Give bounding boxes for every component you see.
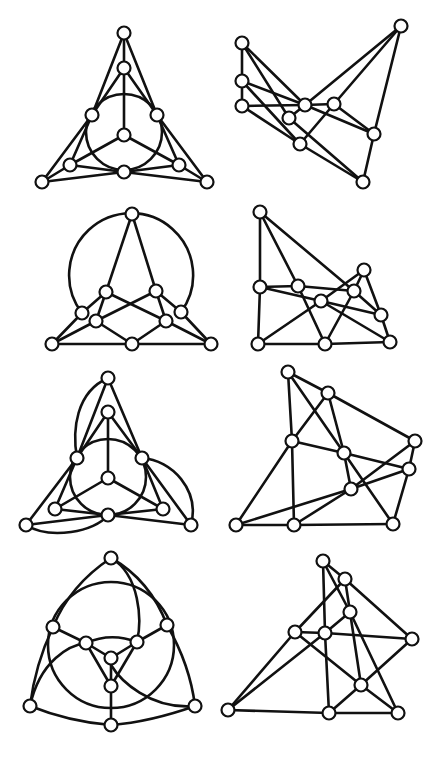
graph-node xyxy=(254,281,267,294)
graph-edge xyxy=(325,633,412,639)
graph-edge xyxy=(351,469,409,489)
graph-node xyxy=(64,159,77,172)
curved-edge xyxy=(69,213,193,313)
graph-edge xyxy=(106,214,132,292)
graph-node xyxy=(100,286,113,299)
graph-node xyxy=(288,519,301,532)
graph-node xyxy=(105,719,118,732)
graph-node xyxy=(384,336,397,349)
graph-node xyxy=(24,700,37,713)
curved-edge xyxy=(111,558,139,642)
graph-node xyxy=(236,100,249,113)
graph-node xyxy=(102,372,115,385)
graph-node xyxy=(150,285,163,298)
curved-edge xyxy=(53,558,111,627)
graph-node xyxy=(286,435,299,448)
graph-node xyxy=(355,679,368,692)
graph-node xyxy=(47,621,60,634)
graph-node xyxy=(20,519,33,532)
graph-node xyxy=(118,62,131,75)
graph-edge xyxy=(228,633,325,710)
graph-node xyxy=(160,315,173,328)
graph-node xyxy=(118,166,131,179)
graph-node xyxy=(252,338,265,351)
graph-node xyxy=(358,264,371,277)
graph-node xyxy=(236,37,249,50)
graph-node xyxy=(319,338,332,351)
graph-node xyxy=(387,518,400,531)
graph-node xyxy=(126,208,139,221)
graph-edge xyxy=(328,393,344,453)
graph-node xyxy=(395,20,408,33)
graph-node xyxy=(409,435,422,448)
graph-node xyxy=(189,700,202,713)
graph-edge xyxy=(260,212,354,291)
graph-node xyxy=(345,483,358,496)
graph-node xyxy=(230,519,243,532)
graph-node xyxy=(126,338,139,351)
graph-node xyxy=(102,472,115,485)
graph-node xyxy=(292,280,305,293)
panel-7 xyxy=(24,552,202,732)
graph-edge xyxy=(325,633,329,713)
graph-edge xyxy=(325,342,390,344)
graph-edge xyxy=(294,524,393,525)
graph-node xyxy=(80,637,93,650)
graph-node xyxy=(322,387,335,400)
graph-edge xyxy=(292,441,294,525)
graph-edge xyxy=(228,710,329,713)
graph-edge xyxy=(108,515,191,525)
graph-node xyxy=(161,619,174,632)
graph-edge xyxy=(228,632,295,710)
graph-node xyxy=(294,138,307,151)
graph-edge xyxy=(361,639,412,685)
graph-node xyxy=(102,509,115,522)
graph-node xyxy=(105,652,118,665)
graph-edge xyxy=(292,393,328,441)
graph-edge xyxy=(124,135,179,165)
graph-node xyxy=(201,176,214,189)
graph-edge xyxy=(294,489,351,525)
graph-node xyxy=(90,315,103,328)
graph-node xyxy=(323,707,336,720)
graph-node xyxy=(344,606,357,619)
graph-node xyxy=(368,128,381,141)
graph-node xyxy=(105,552,118,565)
graph-node xyxy=(136,452,149,465)
graph-node xyxy=(403,463,416,476)
graph-node xyxy=(118,129,131,142)
panel-8 xyxy=(222,555,419,720)
graph-edge xyxy=(300,144,363,182)
graph-node xyxy=(299,99,312,112)
panel-6 xyxy=(230,366,422,532)
graph-node xyxy=(392,707,405,720)
graph-edge xyxy=(55,509,108,515)
graph-node xyxy=(289,626,302,639)
panel-4 xyxy=(252,206,397,351)
graph-node xyxy=(102,406,115,419)
graph-node xyxy=(317,555,330,568)
graph-node xyxy=(173,159,186,172)
graph-node xyxy=(131,636,144,649)
graph-edge xyxy=(393,469,409,524)
curved-edge xyxy=(111,706,195,725)
graph-node xyxy=(315,295,328,308)
graph-node xyxy=(71,452,84,465)
graph-edge xyxy=(323,561,325,633)
graph-drawings-figure xyxy=(0,0,445,758)
graph-node xyxy=(236,75,249,88)
graph-node xyxy=(338,447,351,460)
graph-edge xyxy=(242,105,305,106)
graph-node xyxy=(282,366,295,379)
curved-edge xyxy=(86,637,137,643)
graph-edge xyxy=(260,287,321,301)
graph-node xyxy=(86,109,99,122)
graph-node xyxy=(151,109,164,122)
graph-node xyxy=(357,176,370,189)
graph-edge xyxy=(298,286,354,291)
curved-edge xyxy=(30,706,111,725)
graph-node xyxy=(375,309,388,322)
panel-2 xyxy=(236,20,408,189)
graph-node xyxy=(157,503,170,516)
graph-node xyxy=(283,112,296,125)
